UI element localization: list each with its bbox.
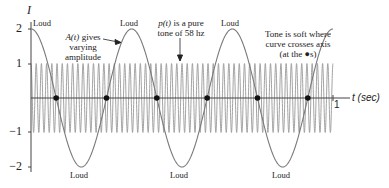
zero-crossing-dot	[104, 95, 110, 101]
zero-crossing-dot	[154, 95, 160, 101]
soft-line3: (at the ●s)	[253, 49, 343, 59]
loud-label-top-2: Loud	[120, 18, 138, 28]
loud-label-bottom-3: Loud	[272, 170, 290, 180]
a-of-t-text: gives	[79, 32, 100, 42]
y-tick-label-neg1: −1	[2, 124, 22, 139]
y-tick-label-2: 2	[2, 21, 22, 36]
a-of-t-line2: varying	[58, 42, 108, 52]
y-tick-label-1: 1	[2, 56, 22, 71]
a-of-t-line3: amplitude	[58, 52, 108, 62]
soft-line1: Tone is soft where	[253, 29, 343, 39]
x-axis-title: t (sec)	[352, 92, 380, 103]
arrow-p-of-t	[178, 38, 183, 61]
p-of-t-text: is a pure	[171, 18, 204, 28]
annotation-p-of-t: p(t) is a pure tone of 58 hz	[150, 18, 212, 38]
p-of-t-line2: tone of 58 hz	[150, 28, 212, 38]
annotation-a-of-t: A(t) gives varying amplitude	[58, 32, 108, 62]
zero-crossing-dot	[204, 95, 210, 101]
loud-label-bottom-2: Loud	[170, 170, 188, 180]
zero-crossing-dot	[255, 95, 261, 101]
a-of-t-symbol: A(t)	[65, 32, 79, 42]
loud-label-top-1: Loud	[33, 18, 51, 28]
y-tick-label-neg2: −2	[2, 159, 22, 174]
zero-crossing-dot	[305, 95, 311, 101]
annotation-soft: Tone is soft where curve crosses axis (a…	[253, 29, 343, 59]
zero-crossing-dot	[53, 95, 59, 101]
p-of-t-symbol: p(t)	[158, 18, 171, 28]
soft-line2: curve crosses axis	[253, 39, 343, 49]
loud-label-bottom-1: Loud	[70, 170, 88, 180]
x-tick-label-1: 1	[334, 99, 340, 110]
x-axis-var: t (sec)	[352, 92, 380, 103]
loud-label-top-3: Loud	[221, 18, 239, 28]
y-axis-title: I	[27, 3, 31, 18]
